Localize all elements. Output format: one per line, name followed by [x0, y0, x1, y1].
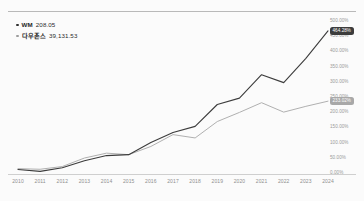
y-axis-tick-label: 150.00%: [330, 124, 349, 129]
legend-item-label: WM: [22, 21, 33, 29]
x-axis-tick-label: 2015: [123, 178, 135, 185]
y-axis-tick-label: 350.00%: [330, 63, 349, 68]
x-axis-tick-label: 2014: [101, 178, 113, 185]
y-axis-tick-label: 50.00%: [330, 154, 346, 159]
legend-marker-icon: [16, 35, 19, 38]
x-axis-tick-label: 2010: [12, 178, 24, 185]
series-line-wm: [18, 31, 328, 171]
legend-item-wm[interactable]: WM 208.05: [16, 21, 77, 29]
series-value-badge: 464.28%: [330, 27, 354, 35]
y-axis-tick-label: 500.00%: [330, 18, 349, 23]
y-axis: 0.00%50.00%100.00%150.00%200.00%250.00%3…: [330, 14, 364, 174]
x-axis-tick-label: 2016: [145, 178, 157, 185]
x-axis-tick-label: 2019: [212, 178, 224, 185]
legend-item-value: 39,131.53: [49, 32, 77, 40]
x-axis-tick-label: 2020: [234, 178, 246, 185]
legend-item-label: 다우존스: [22, 32, 46, 40]
x-axis-tick-label: 2021: [256, 178, 268, 185]
series-line-dowjones: [18, 101, 328, 169]
x-axis-tick-label: 2013: [79, 178, 91, 185]
y-axis-tick-label: 400.00%: [330, 48, 349, 53]
x-axis-tick-label: 2022: [278, 178, 290, 185]
chart-widget: WM 208.05 다우존스 39,131.53 0.00%50.00%100.…: [0, 0, 364, 201]
x-axis-tick-label: 2023: [300, 178, 312, 185]
legend-item-dowjones[interactable]: 다우존스 39,131.53: [16, 32, 77, 40]
x-axis-tick-label: 2017: [167, 178, 179, 185]
y-axis-tick-label: 300.00%: [330, 78, 349, 83]
legend-marker-icon: [16, 24, 19, 27]
series-value-badge: 233.02%: [330, 97, 354, 105]
x-axis-tick-label: 2018: [189, 178, 201, 185]
top-divider: [8, 11, 356, 12]
x-axis-tick-label: 2012: [57, 178, 69, 185]
y-axis-tick-label: 200.00%: [330, 109, 349, 114]
chart-legend: WM 208.05 다우존스 39,131.53: [16, 21, 77, 40]
x-axis-tick-label: 2024: [322, 178, 334, 185]
x-axis: 2010201120122013201420152016201720182019…: [0, 178, 364, 192]
legend-item-value: 208.05: [36, 21, 56, 29]
y-axis-tick-label: 100.00%: [330, 139, 349, 144]
x-axis-tick-label: 2011: [35, 178, 46, 185]
x-axis-line: [8, 174, 356, 175]
